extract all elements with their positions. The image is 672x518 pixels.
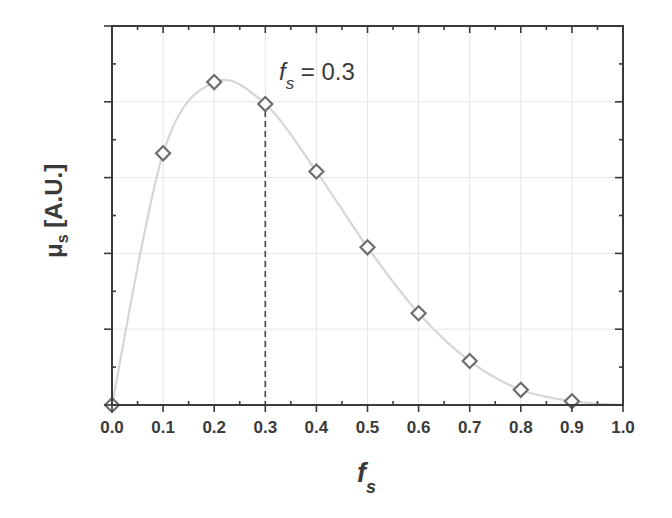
x-tick-label: 0.0 bbox=[100, 418, 124, 437]
grid-lines bbox=[112, 26, 623, 405]
chart: 0.00.10.20.30.40.50.60.70.80.91.0 fs = 0… bbox=[0, 0, 672, 518]
data-markers bbox=[105, 75, 579, 412]
data-point-diamond bbox=[156, 146, 170, 160]
x-tick-label: 0.3 bbox=[253, 418, 277, 437]
data-point-diamond bbox=[514, 383, 528, 397]
x-tick-label: 0.5 bbox=[356, 418, 380, 437]
x-tick-label: 0.7 bbox=[458, 418, 482, 437]
axis-ticks bbox=[104, 26, 623, 412]
x-tick-label: 1.0 bbox=[611, 418, 635, 437]
y-axis-label: μs [A.U.] bbox=[40, 164, 71, 258]
x-tick-label: 0.6 bbox=[407, 418, 431, 437]
y-axis-label-sub: s bbox=[54, 234, 71, 243]
y-axis-label-main: μ bbox=[40, 243, 67, 258]
annotation-rest: = 0.3 bbox=[294, 58, 355, 85]
x-axis-label-sub: s bbox=[366, 477, 376, 497]
x-tick-label: 0.9 bbox=[560, 418, 584, 437]
data-point-diamond bbox=[309, 165, 323, 179]
x-tick-labels: 0.00.10.20.30.40.50.60.70.80.91.0 bbox=[100, 418, 635, 437]
x-axis-label: fs bbox=[357, 458, 376, 497]
x-tick-label: 0.1 bbox=[151, 418, 175, 437]
annotation-fs-value: fs = 0.3 bbox=[279, 58, 355, 93]
y-axis-label-units: [A.U.] bbox=[40, 164, 67, 235]
x-tick-label: 0.4 bbox=[305, 418, 329, 437]
x-tick-label: 0.2 bbox=[202, 418, 226, 437]
data-point-diamond bbox=[207, 75, 221, 89]
x-tick-label: 0.8 bbox=[509, 418, 533, 437]
